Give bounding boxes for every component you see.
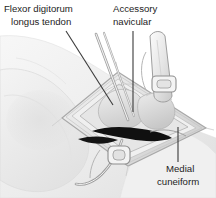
- label-accessory-navicular-line2: navicular: [113, 16, 152, 27]
- illustration-canvas: Flexor digitorum longus tendon Accessory…: [0, 0, 216, 198]
- label-flexor-digitorum-longus-tendon-line2: longus tendon: [11, 16, 71, 27]
- label-accessory-navicular-line1: Accessory: [113, 3, 157, 14]
- label-medial-cuneiform-line1: Medial: [166, 163, 194, 174]
- clamp-ring-inner: [113, 150, 125, 160]
- malleolus-shading: [6, 90, 74, 150]
- label-flexor-digitorum-longus-tendon-line1: Flexor digitorum: [4, 3, 73, 14]
- surgical-illustration-figure: Flexor digitorum longus tendon Accessory…: [0, 0, 216, 198]
- label-medial-cuneiform-line2: cuneiform: [157, 176, 199, 187]
- retractor-ring-inner: [157, 80, 171, 88]
